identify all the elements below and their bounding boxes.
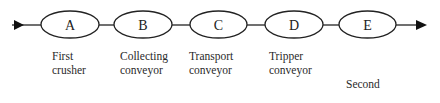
description-line: Tripper bbox=[269, 49, 312, 63]
node-b: B bbox=[114, 11, 172, 38]
node-d-label: D bbox=[289, 18, 299, 33]
description-line: Second bbox=[346, 77, 392, 91]
node-e-label: E bbox=[363, 18, 372, 33]
node-c-label: C bbox=[214, 18, 223, 33]
node-c-description: Transport conveyor bbox=[189, 49, 233, 77]
node-a-label: A bbox=[65, 18, 76, 33]
node-d-description: Tripper conveyor bbox=[269, 49, 312, 77]
node-a-description: First crusher bbox=[52, 49, 86, 77]
description-line: Collecting bbox=[120, 49, 168, 63]
input-arrowhead-icon bbox=[14, 20, 24, 30]
node-e-description: Second crusher + vibrating screen bbox=[346, 49, 392, 103]
description-line: First bbox=[52, 49, 86, 63]
node-e: E bbox=[339, 11, 396, 38]
node-c: C bbox=[190, 11, 247, 38]
node-a: A bbox=[41, 11, 99, 38]
description-line: conveyor bbox=[189, 63, 233, 77]
description-line: crusher bbox=[52, 63, 86, 77]
node-b-label: B bbox=[138, 18, 147, 33]
description-line: conveyor bbox=[269, 63, 312, 77]
output-arrowhead-icon bbox=[416, 20, 427, 30]
description-line: conveyor bbox=[120, 63, 168, 77]
description-line: Transport bbox=[189, 49, 233, 63]
node-d: D bbox=[265, 11, 323, 38]
node-b-description: Collecting conveyor bbox=[120, 49, 168, 77]
